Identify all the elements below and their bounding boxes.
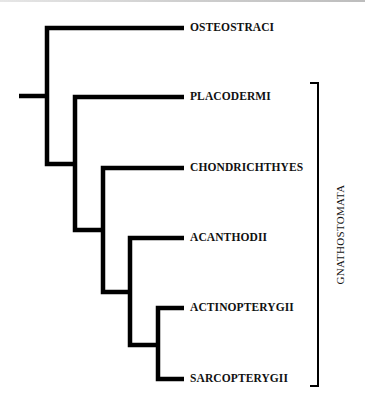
clade-bracket [310, 83, 318, 386]
node-5-branches [158, 308, 184, 379]
taxon-label-chondrichthyes: CHONDRICHTHYES [190, 162, 303, 174]
taxon-label-actinopterygii: ACTINOPTERYGII [190, 302, 294, 314]
taxon-label-sarcopterygii: SARCOPTERYGII [190, 373, 288, 385]
clade-label-gnathostomata: GNATHOSTOMATA [335, 183, 346, 287]
node-2-branches [75, 97, 184, 230]
cladogram-tree [0, 0, 365, 406]
node-3-branches [103, 168, 184, 292]
taxon-label-osteostraci: OSTEOSTRACI [190, 22, 274, 34]
taxon-label-placodermi: PLACODERMI [190, 91, 271, 103]
taxon-label-acanthodii: ACANTHODII [190, 232, 267, 244]
